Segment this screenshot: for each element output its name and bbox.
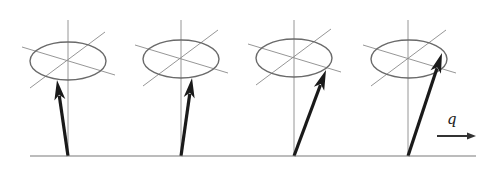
spin-arrow-shaft	[408, 68, 437, 156]
spin-cone-1	[22, 20, 115, 156]
spin-cones	[22, 20, 456, 156]
spin-cone-2	[135, 20, 228, 156]
spin-spiral-diagram: q	[0, 0, 504, 176]
spin-arrow-shaft	[181, 94, 190, 156]
wavevector-label: q	[447, 110, 457, 128]
wavevector-q: q	[437, 110, 476, 140]
spin-arrow-shaft	[294, 85, 320, 156]
spin-cone-3	[248, 20, 341, 156]
spin-arrow-shaft	[59, 96, 68, 156]
arrowhead-icon	[467, 133, 476, 140]
